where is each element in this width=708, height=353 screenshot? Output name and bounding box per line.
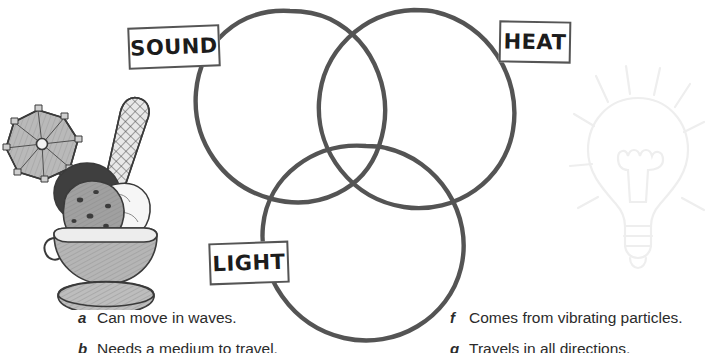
answer-text: Needs a medium to travel. bbox=[97, 340, 278, 353]
answer-key: b bbox=[78, 340, 97, 353]
answer-item: f Comes from vibrating particles. bbox=[450, 309, 708, 340]
answer-key: a bbox=[78, 309, 97, 326]
venn-diagram bbox=[0, 0, 708, 353]
answer-text: Travels in all directions. bbox=[469, 340, 630, 353]
answer-list-right: f Comes from vibrating particles. g Trav… bbox=[450, 309, 708, 353]
venn-label-light-text: LIGHT bbox=[212, 250, 286, 277]
answer-list-left: a Can move in waves. b Needs a medium to… bbox=[78, 309, 408, 353]
answer-item: g Travels in all directions. bbox=[450, 340, 708, 353]
answer-text: Comes from vibrating particles. bbox=[469, 309, 683, 327]
venn-label-sound-text: SOUND bbox=[130, 33, 218, 60]
answer-item: a Can move in waves. bbox=[78, 309, 408, 340]
venn-label-heat-text: HEAT bbox=[503, 29, 566, 54]
answer-key: g bbox=[450, 340, 469, 353]
venn-circle-heat bbox=[319, 10, 515, 208]
worksheet-page: SOUND HEAT LIGHT a Can move in waves. b … bbox=[0, 0, 708, 353]
venn-label-heat: HEAT bbox=[499, 20, 572, 63]
answer-text: Can move in waves. bbox=[97, 309, 237, 327]
answer-item: b Needs a medium to travel. bbox=[78, 340, 408, 353]
venn-label-sound: SOUND bbox=[127, 24, 221, 70]
answer-key: f bbox=[450, 309, 469, 326]
venn-label-light: LIGHT bbox=[208, 241, 289, 286]
